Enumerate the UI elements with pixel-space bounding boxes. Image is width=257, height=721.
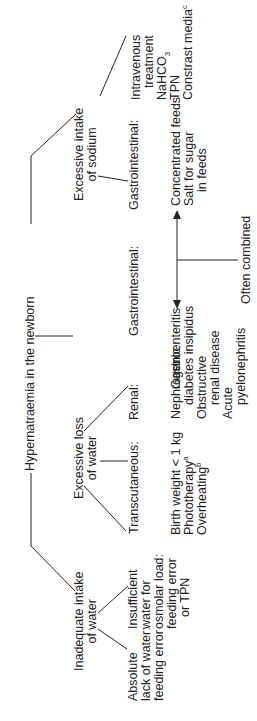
node-intravenous: Intravenous treatment NaHCO3 TPN Constra…	[130, 5, 195, 100]
node-gastrointestinal-sodium: Gastrointestinal:	[128, 120, 141, 210]
often-combined-note: Often combined	[240, 216, 253, 304]
list-item: Overheatingb	[196, 432, 209, 535]
node-insufficient-water: Insufficient water for osmolar load: fee…	[127, 554, 192, 629]
list-item: pyelonephritis	[235, 306, 248, 419]
node-excessive-loss: Excessive loss of water	[73, 417, 99, 499]
node-label: of water	[86, 417, 99, 499]
list-transcutaneous: Birth weight < 1 kg Phototherapya Overhe…	[170, 432, 209, 535]
item-gastroenteritis: Gastroenteritis	[170, 308, 183, 389]
node-label: of sodium	[86, 108, 99, 201]
node-gastrointestinal-loss: Gastrointestinal:	[128, 246, 141, 336]
list-item: in feeds	[196, 97, 209, 206]
node-renal: Renal:	[128, 384, 141, 420]
node-label: of water	[86, 572, 99, 671]
node-excessive-sodium: Excessive intake of sodium	[73, 108, 99, 201]
hypernatraemia-diagram: Hypernatraemia in the newborn Inadequate…	[0, 0, 257, 721]
diagram-title: Hypernatraemia in the newborn	[24, 297, 37, 471]
node-label: feeding error	[153, 627, 166, 701]
node-transcutaneous: Transcutaneous:	[128, 441, 141, 534]
node-inadequate-intake: Inadequate intake of water	[73, 572, 99, 671]
list-gastro-sodium: Concentrated feeds Salt for sugar in fee…	[170, 97, 209, 206]
node-label: or TPN	[179, 554, 192, 629]
list-item: Constrast mediac	[182, 5, 195, 100]
node-absolute-lack: Absolute lack of water: feeding error	[127, 627, 166, 701]
